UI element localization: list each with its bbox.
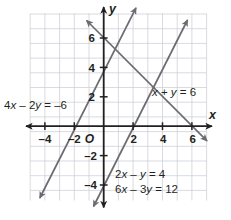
x-tick-label-6: 6 [189, 133, 195, 145]
y-tick-label-2: 2 [89, 91, 95, 103]
equation-label-right: x + y = 6 [151, 86, 196, 98]
y-tick-label-4: 4 [89, 62, 96, 74]
equation-label-bottom-second: 6x – 3y = 12 [115, 183, 178, 195]
y-tick-label-neg2: –2 [84, 150, 97, 162]
x-axis-label: x [208, 108, 217, 122]
x-tick-label-neg4: –4 [39, 133, 52, 145]
x-tick-label-neg2: –2 [68, 133, 81, 145]
origin-label: O [85, 132, 95, 146]
x-tick-label-2: 2 [131, 133, 137, 145]
coordinate-plane-svg: –4 –2 2 4 6 6 4 2 –2 –4 O x y 4x – 2y = … [0, 0, 231, 220]
y-tick-label-neg4: –4 [84, 179, 97, 191]
y-axis-label: y [108, 2, 117, 16]
y-tick-label-6: 6 [89, 32, 95, 44]
equation-label-left: 4x – 2y = –6 [4, 99, 67, 111]
equation-label-bottom-first: 2x – y = 4 [115, 168, 166, 180]
x-tick-label-4: 4 [160, 133, 167, 145]
graph-figure: –4 –2 2 4 6 6 4 2 –2 –4 O x y 4x – 2y = … [0, 0, 231, 220]
